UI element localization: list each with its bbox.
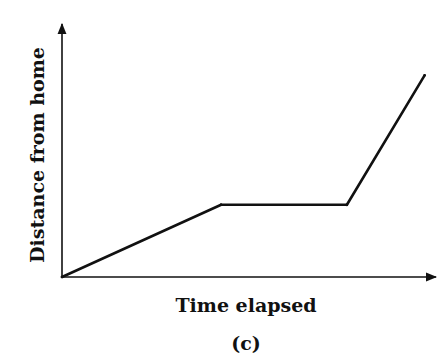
distance-time-chart: Distance from home Time elapsed (c) [0, 0, 443, 358]
data-point-2 [220, 203, 223, 206]
x-axis-label: Time elapsed [175, 294, 316, 316]
line-segment-3 [347, 75, 425, 204]
line-segment-1 [62, 205, 221, 277]
data-point-4 [423, 74, 426, 77]
data-point-1 [61, 276, 64, 279]
figure-caption: (c) [231, 332, 261, 354]
data-point-3 [346, 203, 349, 206]
y-axis-label: Distance from home [26, 47, 48, 263]
